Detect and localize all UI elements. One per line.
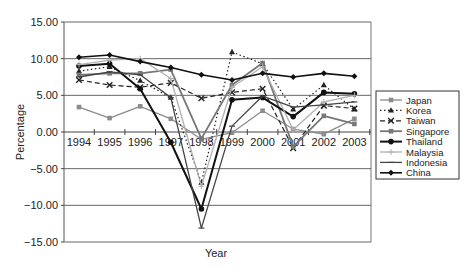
y-tick-label: 0.00 [37, 126, 58, 138]
legend-label: Korea [406, 105, 432, 116]
x-tick-label: 2000 [250, 136, 274, 148]
y-tick-label: −5.00 [30, 163, 58, 175]
line-chart: 15.0010.005.000.00−5.00−10.00−15.00 1994… [0, 0, 462, 268]
y-tick-label: −10.00 [24, 199, 58, 211]
legend-label: Malaysia [406, 147, 444, 158]
y-axis-ticks: 15.0010.005.000.00−5.00−10.00−15.00 [24, 16, 58, 248]
legend: JapanKoreaTaiwanSingaporeThailandMalaysi… [376, 91, 459, 179]
y-tick-label: 10.00 [30, 53, 58, 65]
y-tick-label: −15.00 [24, 236, 58, 248]
x-tick-label: 1994 [67, 136, 91, 148]
x-tick-label: 2003 [342, 136, 366, 148]
y-tick-label: 5.00 [37, 89, 58, 101]
x-tick-label: 1995 [97, 136, 121, 148]
legend-label: Thailand [406, 136, 442, 147]
y-tick-label: 15.00 [30, 16, 58, 28]
series-korea [76, 49, 357, 185]
legend-label: Japan [406, 95, 432, 106]
y-axis-label: Percentage [14, 104, 26, 160]
x-axis-label: Year [205, 247, 228, 259]
legend-label: Indonesia [406, 157, 448, 168]
series-malaysia [76, 56, 357, 190]
series-china [76, 52, 357, 83]
x-tick-label: 1996 [128, 136, 152, 148]
x-tick-label: 2002 [312, 136, 336, 148]
legend-label: Taiwan [406, 115, 436, 126]
legend-label: China [406, 167, 432, 178]
legend-label: Singapore [406, 126, 449, 137]
x-tick-label: 1999 [220, 136, 244, 148]
